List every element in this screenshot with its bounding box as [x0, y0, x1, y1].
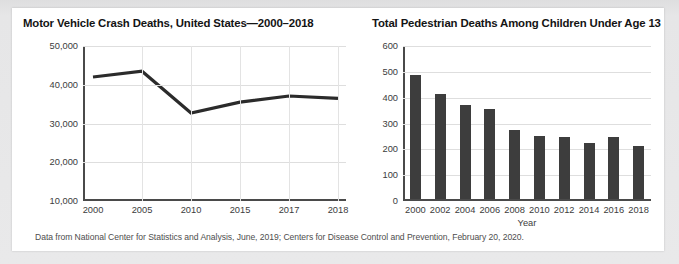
y-axis-tick-label: 0	[393, 196, 398, 206]
x-axis-tick-label: 2018	[328, 205, 349, 215]
page-background: Motor Vehicle Crash Deaths, United State…	[0, 0, 679, 264]
x-axis-tick-label: 2000	[405, 205, 426, 215]
x-axis-tick-label: 2008	[504, 205, 525, 215]
x-axis-tick-label: 2005	[132, 205, 153, 215]
gridline-horizontal	[83, 124, 346, 125]
figure-card: Motor Vehicle Crash Deaths, United State…	[12, 8, 664, 251]
bar-chart-panel: Total Pedestrian Deaths Among Children U…	[372, 17, 657, 232]
gridline-vertical	[289, 46, 290, 201]
y-axis-tick-label: 400	[382, 93, 398, 103]
x-axis-tick-label: 2018	[628, 205, 649, 215]
bar	[410, 75, 421, 199]
y-axis-tick-label: 200	[382, 144, 398, 154]
x-axis-tick-label: 2017	[279, 205, 300, 215]
y-axis-tick-label: 300	[382, 119, 398, 129]
x-axis-tick-label: 2004	[455, 205, 476, 215]
bar	[484, 109, 495, 199]
bar	[435, 94, 446, 200]
x-axis-tick-label: 2006	[479, 205, 500, 215]
gridline-horizontal	[83, 85, 346, 86]
bar	[509, 130, 520, 200]
bar-chart-title: Total Pedestrian Deaths Among Children U…	[372, 17, 661, 29]
bar-chart-x-axis-label: Year	[403, 218, 651, 228]
gridline-horizontal	[83, 46, 346, 47]
gridline-vertical	[338, 46, 339, 201]
x-axis-tick-label: 2010	[181, 205, 202, 215]
y-axis-tick-label: 30,000	[50, 119, 78, 129]
y-axis-tick-label: 500	[382, 67, 398, 77]
y-axis-tick-label: 10,000	[50, 196, 78, 206]
bar	[584, 143, 595, 200]
line-chart-title: Motor Vehicle Crash Deaths, United State…	[23, 17, 314, 29]
y-axis-tick-label: 100	[382, 170, 398, 180]
y-axis-tick-label: 20,000	[50, 157, 78, 167]
x-axis-tick-label: 2010	[529, 205, 550, 215]
x-axis-tick-label: 2014	[579, 205, 600, 215]
gridline-horizontal	[403, 46, 651, 47]
y-axis-tick-label: 50,000	[50, 41, 78, 51]
gridline-vertical	[240, 46, 241, 201]
x-axis-tick-label: 2015	[230, 205, 251, 215]
line-chart-plot-area: 10,00020,00030,00040,00050,0002000200520…	[83, 46, 346, 201]
y-axis-tick-label: 40,000	[50, 80, 78, 90]
gridline-horizontal	[83, 162, 346, 163]
x-axis-tick-label: 2016	[603, 205, 624, 215]
bar	[633, 146, 644, 199]
x-axis-tick-label: 2002	[430, 205, 451, 215]
x-axis-tick-label: 2012	[554, 205, 575, 215]
gridline-horizontal	[403, 72, 651, 73]
source-note: Data from National Center for Statistics…	[35, 232, 524, 242]
y-axis-tick-label: 600	[382, 41, 398, 51]
bar	[460, 105, 471, 199]
bar	[534, 136, 545, 199]
x-axis-tick-label: 2000	[83, 205, 104, 215]
bar-chart-x-axis	[403, 199, 651, 201]
bar	[608, 137, 619, 199]
gridline-vertical	[191, 46, 192, 201]
bar	[559, 137, 570, 199]
gridline-vertical	[142, 46, 143, 201]
line-chart-panel: Motor Vehicle Crash Deaths, United State…	[23, 17, 348, 222]
bar-chart-plot-area: Year 01002003004005006002000200220042006…	[403, 46, 651, 201]
